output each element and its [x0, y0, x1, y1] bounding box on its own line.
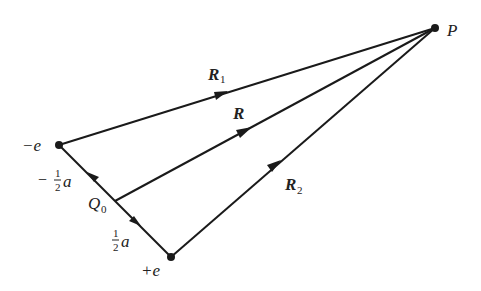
pos-charge-dot	[167, 253, 175, 261]
svg-text:R: R	[232, 104, 244, 123]
label-pos-charge: +e	[141, 261, 160, 280]
svg-text:Q: Q	[88, 194, 100, 213]
label-p: P	[446, 21, 457, 40]
svg-text:R: R	[284, 175, 296, 194]
label-neg-charge: −e	[22, 136, 41, 155]
svg-text:2: 2	[113, 241, 119, 253]
label-r1: R 1	[207, 65, 226, 85]
vector-r2	[171, 28, 435, 257]
arrowhead-icon	[267, 160, 281, 172]
label-q0: Q 0	[88, 194, 107, 215]
svg-text:R: R	[207, 65, 219, 84]
svg-text:2: 2	[297, 184, 303, 196]
label-r2: R 2	[284, 175, 303, 196]
svg-text:a: a	[63, 172, 72, 191]
label-minus-half-a: − 1 2 a	[38, 167, 72, 193]
vector-r	[115, 28, 435, 201]
dipole-diagram: P −e +e Q 0 R 1 R R 2 − 1 2 a 1 2 a	[0, 0, 481, 291]
point-p-dot	[431, 24, 439, 32]
svg-text:0: 0	[101, 203, 107, 215]
arrowhead-icon	[214, 91, 228, 100]
arrowhead-icon	[236, 127, 252, 138]
label-r: R	[232, 104, 244, 123]
svg-text:a: a	[121, 232, 130, 251]
neg-charge-dot	[55, 141, 63, 149]
svg-text:1: 1	[55, 167, 61, 179]
svg-text:1: 1	[113, 227, 119, 239]
label-plus-half-a: 1 2 a	[112, 227, 130, 253]
svg-text:1: 1	[220, 73, 226, 85]
svg-text:−: −	[38, 171, 47, 188]
svg-text:2: 2	[55, 181, 61, 193]
arrowhead-icon	[87, 172, 99, 182]
